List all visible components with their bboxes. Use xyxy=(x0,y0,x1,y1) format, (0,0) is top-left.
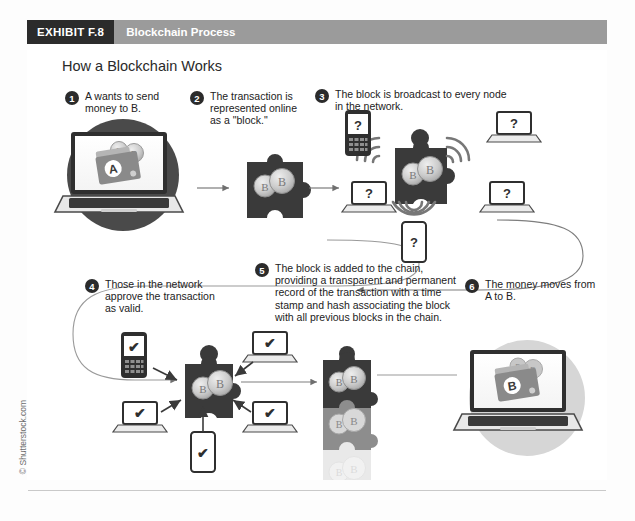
svg-text:B: B xyxy=(350,373,357,385)
svg-text:✔: ✔ xyxy=(264,405,276,421)
svg-text:✔: ✔ xyxy=(264,335,276,351)
svg-text:B: B xyxy=(350,463,357,475)
step-6: 6 The money moves from A to B. xyxy=(465,278,600,302)
step-1: 1 A wants to send money to B. xyxy=(65,90,185,114)
step-5-text: The block is added to the chain, providi… xyxy=(275,262,460,323)
step-4-text: Those in the network approve the transac… xyxy=(105,278,220,315)
step-5-badge: 5 xyxy=(255,263,269,277)
blockchain-figure: How a Blockchain Works xyxy=(27,50,607,480)
step-1-badge: 1 xyxy=(65,91,79,105)
step-4-badge: 4 xyxy=(85,279,99,293)
node-phone-unknown: ? xyxy=(402,222,426,262)
svg-text:B: B xyxy=(278,175,286,189)
svg-text:B: B xyxy=(409,169,416,181)
svg-text:B: B xyxy=(216,377,224,391)
svg-text:?: ? xyxy=(410,235,418,250)
svg-text:✔: ✔ xyxy=(134,405,146,421)
approver-laptop-br: ✔ xyxy=(243,402,297,432)
step-6-text: The money moves from A to B. xyxy=(485,278,600,302)
approver-laptop-bl: ✔ xyxy=(113,402,167,432)
node-laptop-unknown-tr: ? xyxy=(487,112,541,142)
node-laptop-unknown-br: ? xyxy=(480,182,534,212)
step1-laptop-illustration: B B A xyxy=(55,119,183,231)
svg-text:?: ? xyxy=(354,118,362,133)
step-1-text: A wants to send money to B. xyxy=(85,90,185,114)
svg-text:B: B xyxy=(261,181,268,193)
step2-block-illustration: B B xyxy=(247,154,311,218)
image-credit: © Shutterstock.com xyxy=(18,392,28,482)
svg-text:B: B xyxy=(199,383,206,395)
step-2-text: The transaction is represented online as… xyxy=(210,90,310,127)
step-3-text: The block is broadcast to every node in … xyxy=(335,88,515,112)
exhibit-title: Blockchain Process xyxy=(114,20,235,44)
step4-approval-illustration: B B ✔ ✔ ✔ xyxy=(113,332,297,472)
node-handheld-unknown: ? xyxy=(345,110,371,156)
exhibit-header-bar: EXHIBIT F.8 Blockchain Process xyxy=(27,20,607,44)
step-6-badge: 6 xyxy=(465,279,479,293)
step-2-badge: 2 xyxy=(190,91,204,105)
step6-laptop-illustration: B B B xyxy=(454,340,585,456)
step-5: 5 The block is added to the chain, provi… xyxy=(255,262,460,323)
svg-text:B: B xyxy=(336,419,343,430)
svg-text:B: B xyxy=(350,415,357,427)
approver-phone: ✔ xyxy=(191,432,215,472)
approver-laptop-tr: ✔ xyxy=(243,332,297,362)
step5-chain-illustration: B B B B B xyxy=(323,346,378,480)
exhibit-number-tag: EXHIBIT F.8 xyxy=(27,20,114,44)
svg-text:✔: ✔ xyxy=(197,445,209,461)
approver-handheld: ✔ xyxy=(121,332,147,378)
step-2: 2 The transaction is represented online … xyxy=(190,90,310,127)
svg-text:?: ? xyxy=(365,186,373,201)
node-laptop-unknown-bl: ? xyxy=(342,182,396,212)
step-4: 4 Those in the network approve the trans… xyxy=(85,278,220,315)
svg-text:B: B xyxy=(336,377,343,388)
step3-network-illustration: B B xyxy=(342,110,541,262)
bottom-divider xyxy=(28,490,606,491)
exhibit-page: EXHIBIT F.8 Blockchain Process How a Blo… xyxy=(0,0,635,521)
step-3: 3 The block is broadcast to every node i… xyxy=(315,88,515,112)
svg-text:✔: ✔ xyxy=(128,339,140,355)
step-3-badge: 3 xyxy=(315,89,329,103)
svg-text:B: B xyxy=(426,163,434,177)
svg-text:?: ? xyxy=(503,186,511,201)
svg-text:?: ? xyxy=(510,116,518,131)
svg-text:B: B xyxy=(336,467,343,478)
